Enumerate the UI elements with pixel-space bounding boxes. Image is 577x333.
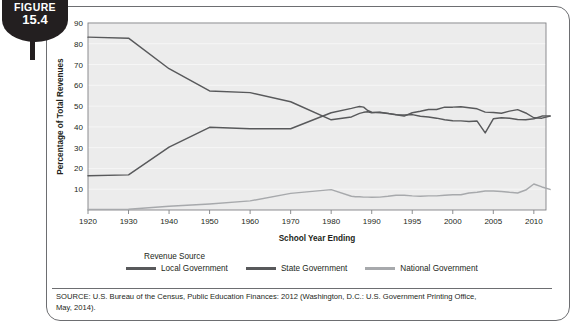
x-tick-label: 1940 [160,217,178,226]
x-tick-label: 1930 [120,217,138,226]
source-line-2: May, 2014). [56,303,96,312]
figure-page: FIGURE 15.4 1020304050607080901920193019… [0,0,577,333]
chart-legend: Revenue Source Local GovernmentState Gov… [126,252,526,273]
y-tick-label: 40 [74,123,83,132]
legend-swatch-icon [246,267,276,269]
x-tick-label: 1995 [403,217,421,226]
plot-background [88,23,546,210]
legend-item-2: National Government [365,264,477,273]
legend-swatch-icon [365,267,395,269]
y-tick-label: 30 [74,144,83,153]
figure-badge: FIGURE 15.4 [2,0,68,42]
legend-title: Revenue Source [144,252,526,261]
chart-svg: 1020304050607080901920193019401950196019… [52,14,552,254]
figure-number: 15.4 [2,13,68,27]
y-tick-label: 10 [74,185,83,194]
x-tick-label: 1920 [79,217,97,226]
y-tick-label: 50 [74,102,83,111]
y-tick-label: 20 [74,164,83,173]
source-note: SOURCE: U.S. Bureau of the Census, Publi… [56,292,546,313]
x-tick-label: 1950 [201,217,219,226]
y-tick-label: 70 [74,61,83,70]
legend-label: Local Government [161,264,228,273]
legend-label: National Government [400,264,477,273]
legend-item-0: Local Government [126,264,228,273]
y-axis-title: Percentage of Total Revenues [56,58,65,175]
legend-entries: Local GovernmentState GovernmentNational… [126,264,526,273]
x-tick-label: 1990 [363,217,381,226]
legend-label: State Government [281,264,347,273]
x-tick-label: 1960 [241,217,259,226]
x-tick-label: 2005 [484,217,502,226]
x-axis-title: School Year Ending [279,234,356,243]
x-tick-label: 2010 [525,217,543,226]
source-divider [52,288,552,289]
y-tick-label: 80 [74,40,83,49]
x-tick-label: 1980 [322,217,340,226]
x-tick-label: 2000 [444,217,462,226]
y-tick-label: 90 [74,19,83,28]
legend-swatch-icon [126,267,156,269]
legend-item-1: State Government [246,264,347,273]
source-line-1: SOURCE: U.S. Bureau of the Census, Publi… [56,292,476,301]
y-tick-label: 60 [74,81,83,90]
x-tick-label: 1970 [282,217,300,226]
line-chart: 1020304050607080901920193019401950196019… [52,14,552,254]
